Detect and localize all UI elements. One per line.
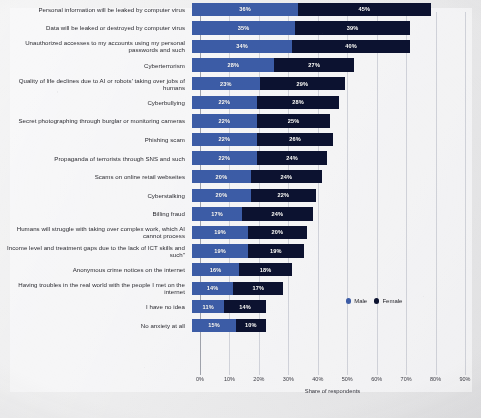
bar-segment-female[interactable]: 18%: [239, 263, 292, 276]
bar-value-label: 24%: [280, 174, 292, 180]
x-axis-tick-label: 10%: [224, 376, 235, 382]
bar-value-label: 10%: [245, 322, 257, 328]
bar-segment-male[interactable]: 17%: [192, 207, 242, 220]
bar-segment-female[interactable]: 39%: [295, 21, 410, 34]
bar-segment-male[interactable]: 15%: [192, 319, 236, 332]
bar-value-label: 20%: [216, 192, 228, 198]
bar-value-label: 23%: [220, 81, 232, 87]
bar-value-label: 17%: [211, 211, 223, 217]
bar-value-label: 18%: [260, 267, 272, 273]
chart-row: Cyberbullying22%28%: [0, 93, 481, 112]
bar-segment-male[interactable]: 20%: [192, 189, 251, 202]
bar-group: 11%14%: [192, 300, 481, 313]
bar-value-label: 22%: [219, 118, 231, 124]
bar-segment-female[interactable]: 25%: [257, 114, 331, 127]
chart-row: Income level and treatment gaps due to t…: [0, 242, 481, 261]
bar-value-label: 11%: [203, 304, 214, 310]
bar-value-label: 22%: [277, 192, 289, 198]
bar-segment-female[interactable]: 28%: [257, 96, 339, 109]
chart-row: Cyberstalking20%22%: [0, 186, 481, 205]
chart-row: Scams on online retail webseites20%24%: [0, 167, 481, 186]
category-label: Propaganda of terrorists through SNS and…: [0, 155, 192, 162]
bar-value-label: 39%: [347, 25, 359, 31]
bar-segment-male[interactable]: 20%: [192, 170, 251, 183]
category-label: Secret photographing through burglar or …: [0, 117, 192, 124]
bar-group: 22%24%: [192, 151, 481, 164]
category-label: Phishing scam: [0, 136, 192, 143]
bar-value-label: 28%: [227, 62, 239, 68]
bar-segment-female[interactable]: 27%: [274, 58, 354, 71]
x-axis-tick-label: 60%: [371, 376, 382, 382]
x-axis-tick-label: 20%: [253, 376, 264, 382]
chart-row: Data will be leaked or destroyed by comp…: [0, 19, 481, 38]
bar-group: 23%29%: [192, 77, 481, 90]
bar-segment-male[interactable]: 14%: [192, 282, 233, 295]
bar-value-label: 19%: [214, 248, 226, 254]
bar-value-label: 45%: [358, 6, 370, 12]
bar-segment-male[interactable]: 34%: [192, 40, 292, 53]
chart-row: I have no idea11%14%: [0, 298, 481, 317]
bar-segment-female[interactable]: 17%: [233, 282, 283, 295]
bar-segment-male[interactable]: 22%: [192, 133, 257, 146]
bar-segment-female[interactable]: 26%: [257, 133, 334, 146]
bar-segment-female[interactable]: 19%: [248, 244, 304, 257]
bar-group: 22%25%: [192, 114, 481, 127]
bar-value-label: 15%: [208, 322, 220, 328]
bar-group: 19%19%: [192, 244, 481, 257]
bar-segment-female[interactable]: 24%: [242, 207, 313, 220]
bar-segment-female[interactable]: 22%: [251, 189, 316, 202]
bar-value-label: 17%: [252, 285, 264, 291]
bar-value-label: 20%: [272, 229, 284, 235]
category-label: Cyberterrorism: [0, 62, 192, 69]
bar-segment-male[interactable]: 19%: [192, 226, 248, 239]
x-axis-tick-label: 90%: [459, 376, 470, 382]
bar-segment-female[interactable]: 24%: [257, 151, 328, 164]
legend-swatch-male-icon: [346, 298, 351, 303]
bar-group: 20%22%: [192, 189, 481, 202]
bar-segment-male[interactable]: 16%: [192, 263, 239, 276]
bar-segment-female[interactable]: 10%: [236, 319, 265, 332]
bar-value-label: 24%: [272, 211, 284, 217]
chart-row: Secret photographing through burglar or …: [0, 112, 481, 131]
bar-value-label: 29%: [297, 81, 309, 87]
bar-segment-female[interactable]: 40%: [292, 40, 410, 53]
bar-segment-male[interactable]: 19%: [192, 244, 248, 257]
bar-value-label: 26%: [289, 136, 301, 142]
category-label: Data will be leaked or destroyed by comp…: [0, 24, 192, 31]
category-label: Personal information will be leaked by c…: [0, 6, 192, 13]
category-label: Humans will struggle with taking over co…: [0, 225, 192, 239]
bar-group: 22%26%: [192, 133, 481, 146]
bar-segment-male[interactable]: 23%: [192, 77, 260, 90]
bar-group: 16%18%: [192, 263, 481, 276]
bar-segment-male[interactable]: 11%: [192, 300, 224, 313]
bar-segment-female[interactable]: 45%: [298, 3, 431, 16]
x-axis-tick-label: 0%: [196, 376, 204, 382]
category-label: Unauthorized accesses to my accounts usi…: [0, 39, 192, 53]
bar-segment-female[interactable]: 14%: [224, 300, 265, 313]
bar-group: 34%40%: [192, 40, 481, 53]
chart-row: Unauthorized accesses to my accounts usi…: [0, 37, 481, 56]
bar-segment-male[interactable]: 22%: [192, 151, 257, 164]
legend-label-female: Female: [382, 298, 402, 304]
bar-segment-female[interactable]: 24%: [251, 170, 322, 183]
bar-segment-male[interactable]: 36%: [192, 3, 298, 16]
category-label: I have no idea: [0, 303, 192, 310]
legend-item-male[interactable]: Male: [346, 298, 367, 304]
chart-row: Phishing scam22%26%: [0, 130, 481, 149]
bar-segment-female[interactable]: 20%: [248, 226, 307, 239]
bar-segment-male[interactable]: 28%: [192, 58, 274, 71]
legend-swatch-female-icon: [374, 298, 379, 303]
bar-segment-female[interactable]: 29%: [260, 77, 345, 90]
chart-row: Billing fraud17%24%: [0, 205, 481, 224]
chart-legend: Male Female: [346, 298, 402, 304]
category-label: Billing fraud: [0, 210, 192, 217]
bar-value-label: 34%: [236, 43, 248, 49]
bar-segment-male[interactable]: 22%: [192, 96, 257, 109]
x-axis-tick-label: 80%: [430, 376, 441, 382]
bar-group: 17%24%: [192, 207, 481, 220]
legend-item-female[interactable]: Female: [374, 298, 402, 304]
bar-segment-male[interactable]: 35%: [192, 21, 295, 34]
legend-label-male: Male: [354, 298, 367, 304]
category-label: Cyberstalking: [0, 192, 192, 199]
bar-segment-male[interactable]: 22%: [192, 114, 257, 127]
